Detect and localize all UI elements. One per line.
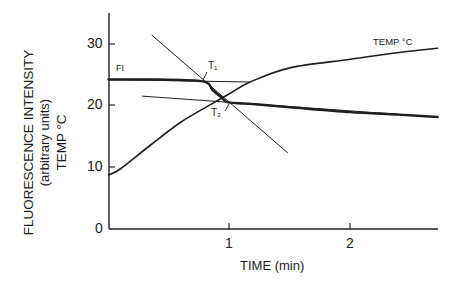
series-temp-c bbox=[109, 48, 438, 175]
y-tick-label-30: 30 bbox=[87, 35, 103, 51]
x-tick-label-1: 1 bbox=[225, 235, 233, 251]
y-axis-title-line1: FLUORESCENCE INTENSITY bbox=[21, 28, 37, 258]
temp-curve-label: TEMP °C bbox=[373, 36, 413, 47]
t1-leader bbox=[203, 72, 207, 80]
fi-curve-label: FI bbox=[116, 63, 124, 73]
y-axis-title: FLUORESCENCE INTENSITY (arbitrary units)… bbox=[21, 28, 70, 258]
y-tick-label-10: 10 bbox=[87, 158, 103, 174]
t2-label: T₂ bbox=[211, 107, 221, 118]
x-tick-label-2: 2 bbox=[346, 235, 354, 251]
y-tick-label-0: 0 bbox=[95, 220, 103, 236]
series-lower-fi-extrapolation bbox=[142, 96, 437, 117]
series-fi bbox=[109, 79, 438, 117]
series-transition-tangent bbox=[152, 35, 288, 152]
t2-leader bbox=[225, 104, 229, 111]
t1-label: T₁ bbox=[208, 60, 217, 71]
series-layer bbox=[109, 35, 438, 175]
x-axis-title: TIME (min) bbox=[240, 258, 304, 273]
y-axis-title-line2: (arbitrary units) bbox=[37, 28, 53, 258]
y-tick-label-20: 20 bbox=[87, 96, 103, 112]
y-axis-title-line3: TEMP °C bbox=[53, 28, 70, 258]
